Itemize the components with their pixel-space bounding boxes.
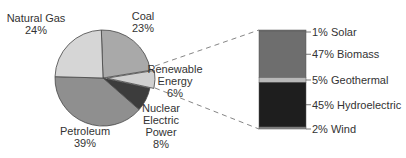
pie-label-natural-gas: Natural Gas24% xyxy=(7,12,66,36)
pie-label-line: Coal xyxy=(132,10,155,22)
bar-segment-biomass xyxy=(259,31,306,78)
pie-label-line: 8% xyxy=(153,138,169,150)
pie-label-line: 23% xyxy=(132,22,154,34)
connector-top xyxy=(155,30,259,66)
pie-label-line: 6% xyxy=(167,87,183,99)
pie-label-line: Power xyxy=(145,126,177,138)
pie-label-coal: Coal23% xyxy=(132,10,155,34)
bar-segment-wind xyxy=(259,127,306,129)
pie-label-nuclear-electric-power: NuclearElectricPower8% xyxy=(142,102,180,150)
pie-slice-coal xyxy=(101,30,150,78)
bar-label-solar: 1% Solar xyxy=(312,26,357,38)
bar-segment-hydroelectric xyxy=(259,82,306,127)
pie-label-renewable-energy: RenewableEnergy6% xyxy=(147,63,202,99)
bar-label-hydroelectric: 45% Hydroelectric xyxy=(312,99,402,111)
pie-slice-natural-gas xyxy=(55,30,103,78)
bar-label-geothermal: 5% Geothermal xyxy=(312,74,388,86)
bar-label-biomass: 47% Biomass xyxy=(312,48,380,60)
energy-pie-chart: Coal23%RenewableEnergy6%NuclearElectricP… xyxy=(0,0,406,158)
pie-label-line: Renewable xyxy=(147,63,202,75)
pie-label-line: 39% xyxy=(74,137,96,149)
bar-segment-geothermal xyxy=(259,78,306,83)
pie-label-line: Petroleum xyxy=(60,125,110,137)
pie-label-line: Natural Gas xyxy=(7,12,66,24)
breakdown-bar xyxy=(259,30,311,129)
pie xyxy=(55,30,155,126)
pie-label-line: Energy xyxy=(158,75,193,87)
pie-label-line: Nuclear xyxy=(142,102,180,114)
pie-label-line: Electric xyxy=(143,114,180,126)
bar-label-wind: 2% Wind xyxy=(312,123,356,135)
pie-label-line: 24% xyxy=(25,24,47,36)
pie-label-petroleum: Petroleum39% xyxy=(60,125,110,149)
